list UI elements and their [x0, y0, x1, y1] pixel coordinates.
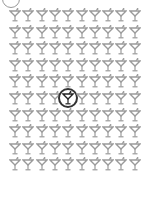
- glass-cell[interactable]: [49, 8, 61, 22]
- glass-cell[interactable]: [9, 141, 21, 155]
- glass-cell[interactable]: [36, 8, 48, 22]
- glass-cell[interactable]: [129, 8, 141, 22]
- glass-cell[interactable]: [129, 157, 141, 171]
- glass-cell[interactable]: [62, 141, 74, 155]
- glass-cell[interactable]: [9, 58, 21, 72]
- glass-cell[interactable]: [36, 74, 48, 88]
- glass-cell[interactable]: [129, 41, 141, 55]
- glass-cell[interactable]: [115, 108, 127, 122]
- glass-cell[interactable]: [102, 25, 114, 39]
- glass-cell[interactable]: [22, 8, 34, 22]
- glass-cell[interactable]: [129, 58, 141, 72]
- glass-cell[interactable]: [36, 124, 48, 138]
- glass-cell[interactable]: [9, 157, 21, 171]
- glass-cell[interactable]: [22, 157, 34, 171]
- glass-cell[interactable]: [36, 25, 48, 39]
- glass-cell[interactable]: [129, 141, 141, 155]
- glass-cell[interactable]: [102, 74, 114, 88]
- glass-cell[interactable]: [36, 41, 48, 55]
- glass-cell[interactable]: [36, 157, 48, 171]
- glass-cell[interactable]: [76, 8, 88, 22]
- glass-cell[interactable]: [89, 25, 101, 39]
- glass-cell[interactable]: [89, 108, 101, 122]
- glass-cell[interactable]: [76, 157, 88, 171]
- glass-cell[interactable]: [76, 108, 88, 122]
- glass-cell[interactable]: [9, 108, 21, 122]
- glass-cell[interactable]: [89, 41, 101, 55]
- glass-cell[interactable]: [76, 25, 88, 39]
- glass-cell[interactable]: [36, 91, 48, 105]
- glass-cell[interactable]: [102, 108, 114, 122]
- glass-cell[interactable]: [9, 25, 21, 39]
- glass-cell[interactable]: [115, 8, 127, 22]
- glass-cell[interactable]: [22, 108, 34, 122]
- glass-cell[interactable]: [129, 25, 141, 39]
- glass-cell[interactable]: [49, 124, 61, 138]
- glass-cell[interactable]: [89, 58, 101, 72]
- glass-cell[interactable]: [115, 157, 127, 171]
- glass-cell[interactable]: [22, 141, 34, 155]
- glass-cell[interactable]: [76, 124, 88, 138]
- glass-cell[interactable]: [9, 8, 21, 22]
- glass-cell[interactable]: [115, 124, 127, 138]
- glass-cell[interactable]: [62, 58, 74, 72]
- glass-cell[interactable]: [89, 141, 101, 155]
- glass-cell[interactable]: [115, 74, 127, 88]
- glass-cell[interactable]: [62, 41, 74, 55]
- glass-cell[interactable]: [115, 41, 127, 55]
- glass-cell[interactable]: [49, 58, 61, 72]
- glass-cell[interactable]: [36, 141, 48, 155]
- glass-cell[interactable]: [22, 91, 34, 105]
- glass-cell[interactable]: [115, 91, 127, 105]
- glass-cell[interactable]: [89, 8, 101, 22]
- glass-cell[interactable]: [102, 41, 114, 55]
- glass-cell[interactable]: [36, 58, 48, 72]
- glass-cell[interactable]: [102, 157, 114, 171]
- glass-cell[interactable]: [62, 74, 74, 88]
- glass-cell[interactable]: [102, 91, 114, 105]
- glass-cell[interactable]: [62, 108, 74, 122]
- glass-cell[interactable]: [89, 91, 101, 105]
- martini-glass-icon: [89, 58, 101, 72]
- glass-cell[interactable]: [62, 8, 74, 22]
- glass-cell[interactable]: [49, 25, 61, 39]
- glass-cell[interactable]: [62, 157, 74, 171]
- glass-cell[interactable]: [76, 141, 88, 155]
- glass-cell[interactable]: [22, 41, 34, 55]
- glass-cell[interactable]: [49, 41, 61, 55]
- glass-cell[interactable]: [22, 74, 34, 88]
- glass-cell[interactable]: [89, 124, 101, 138]
- glass-cell[interactable]: [76, 41, 88, 55]
- glass-cell[interactable]: [129, 124, 141, 138]
- glass-cell[interactable]: [102, 8, 114, 22]
- glass-cell[interactable]: [102, 124, 114, 138]
- glass-cell[interactable]: [115, 58, 127, 72]
- glass-cell[interactable]: [36, 108, 48, 122]
- glass-cell[interactable]: [62, 124, 74, 138]
- glass-cell[interactable]: [9, 41, 21, 55]
- glass-cell[interactable]: [129, 91, 141, 105]
- glass-cell[interactable]: [102, 141, 114, 155]
- glass-cell[interactable]: [76, 58, 88, 72]
- glass-cell[interactable]: [115, 141, 127, 155]
- glass-cell[interactable]: [22, 25, 34, 39]
- glass-cell[interactable]: [49, 157, 61, 171]
- glass-cell[interactable]: [129, 108, 141, 122]
- glass-cell[interactable]: [49, 108, 61, 122]
- glass-cell[interactable]: [62, 25, 74, 39]
- glass-cell[interactable]: [89, 157, 101, 171]
- glass-cell[interactable]: [49, 74, 61, 88]
- glass-cell[interactable]: [102, 58, 114, 72]
- martini-glass-icon: [102, 8, 114, 22]
- glass-cell[interactable]: [9, 91, 21, 105]
- glass-cell[interactable]: [89, 74, 101, 88]
- glass-cell[interactable]: [22, 124, 34, 138]
- glass-cell[interactable]: [115, 25, 127, 39]
- glass-cell[interactable]: [9, 124, 21, 138]
- glass-cell[interactable]: [49, 141, 61, 155]
- glass-cell[interactable]: [9, 74, 21, 88]
- glass-cell[interactable]: [76, 74, 88, 88]
- glass-cell[interactable]: [129, 74, 141, 88]
- glass-cell[interactable]: [22, 58, 34, 72]
- glass-cell[interactable]: [76, 91, 88, 105]
